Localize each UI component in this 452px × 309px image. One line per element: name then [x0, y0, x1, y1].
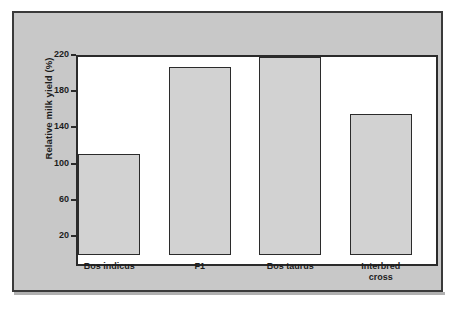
bar [259, 57, 321, 255]
y-axis-tick-label: 220 [54, 49, 69, 59]
x-axis-category-label: Interbred cross [336, 261, 427, 283]
y-axis-tick-label: 100 [54, 158, 69, 168]
bar [78, 154, 140, 255]
chart-panel: Relative milk yield (%) 2201801401006020… [12, 11, 443, 292]
bar-chart-figure: Relative milk yield (%) 2201801401006020… [0, 0, 452, 309]
x-axis-category-label: F1 [155, 261, 246, 272]
y-axis-tick-label: 140 [54, 121, 69, 131]
y-axis-tick-label: 60 [59, 194, 69, 204]
bar [350, 114, 412, 255]
y-axis-tick-label: 180 [54, 85, 69, 95]
y-axis-tick-label: 20 [59, 230, 69, 240]
panel-shadow [14, 292, 445, 295]
x-axis-category-label: Bos taurus [245, 261, 336, 272]
x-axis-category-label: Bos indicus [64, 261, 155, 272]
bar [169, 67, 231, 255]
y-axis: 2201801401006020 [14, 55, 76, 266]
